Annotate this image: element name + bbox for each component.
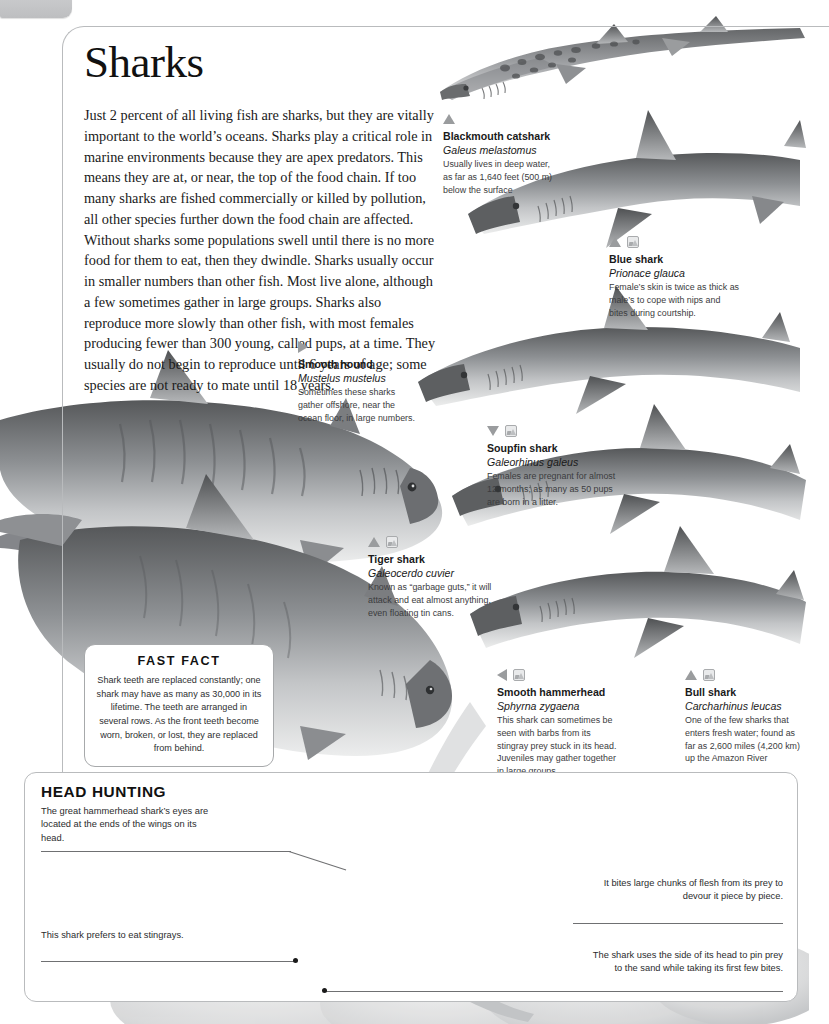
photo-icon [703, 669, 715, 681]
triangle-down-icon [487, 426, 499, 436]
species-name: Blackmouth catshark [443, 130, 558, 144]
species-description: Females are pregnant for almost 12 month… [487, 470, 619, 508]
species-name: Smooth hound [298, 358, 418, 372]
species-latin-name: Galeorhinus galeus [487, 456, 619, 470]
caption-smooth-hammerhead: Smooth hammerhead Sphyrna zygaena This s… [497, 668, 622, 778]
caption-soupfin-shark: Soupfin shark Galeorhinus galeus Females… [487, 424, 619, 508]
photo-icon [386, 536, 398, 548]
caption-tiger-shark: Tiger shark Galeocerdo cuvier Known as “… [368, 535, 500, 619]
leader-dot-stingray [293, 958, 298, 963]
species-name: Soupfin shark [487, 442, 619, 456]
fast-fact-body: Shark teeth are replaced constantly; one… [95, 674, 263, 756]
caption-markers [685, 668, 805, 682]
species-description: Female’s skin is twice as thick as male’… [609, 281, 741, 319]
species-description: One of the few sharks that enters fresh … [685, 714, 805, 765]
caption-bull-shark: Bull shark Carcharhinus leucas One of th… [685, 668, 805, 765]
note-eyes: The great hammerhead shark’s eyes are lo… [41, 805, 211, 845]
head-hunting-panel: HEAD HUNTING The great hammerhead shark’… [24, 772, 798, 1002]
caption-blue-shark: Blue shark Prionace glauca Female’s skin… [609, 235, 741, 319]
triangle-right-icon [298, 341, 308, 353]
triangle-up-icon [443, 114, 455, 124]
caption-markers [609, 235, 741, 249]
leader-dot-pin [322, 988, 327, 993]
head-hunting-title: HEAD HUNTING [41, 783, 166, 801]
species-latin-name: Mustelus mustelus [298, 372, 418, 386]
note-pin: The shark uses the side of its head to p… [588, 949, 783, 976]
species-description: This shark can sometimes be seen with ba… [497, 714, 622, 777]
leader-line-eyes-angle [289, 851, 346, 870]
photo-icon [513, 669, 525, 681]
caption-markers [487, 424, 619, 438]
triangle-up-icon [609, 237, 621, 247]
leader-line-eyes [41, 851, 291, 852]
species-description: Known as “garbage guts,” it will attack … [368, 581, 500, 619]
leader-line-stingray [41, 961, 296, 962]
triangle-up-icon [368, 537, 380, 547]
leader-line-pin [323, 991, 783, 992]
species-name: Smooth hammerhead [497, 686, 622, 700]
leader-line-bite [573, 923, 783, 924]
species-description: Usually lives in deep water, as far as 1… [443, 158, 558, 196]
triangle-left-icon [497, 669, 507, 681]
note-stingray: This shark prefers to eat stingrays. [41, 929, 191, 942]
caption-markers [298, 340, 418, 354]
triangle-up-icon [685, 670, 697, 680]
species-latin-name: Carcharhinus leucas [685, 700, 805, 714]
species-name: Blue shark [609, 253, 741, 267]
page-number-tab: 166 [0, 0, 72, 18]
species-description: Sometimes these sharks gather offshore, … [298, 386, 418, 424]
caption-markers [368, 535, 500, 549]
species-latin-name: Galeus melastomus [443, 144, 558, 158]
photo-icon [505, 425, 517, 437]
caption-smooth-hound: Smooth hound Mustelus mustelus Sometimes… [298, 340, 418, 424]
fast-fact-heading: FAST FACT [95, 654, 263, 668]
caption-markers [443, 112, 558, 126]
fast-fact-box: FAST FACT Shark teeth are replaced const… [84, 644, 274, 767]
species-latin-name: Sphyrna zygaena [497, 700, 622, 714]
caption-markers [497, 668, 622, 682]
species-name: Bull shark [685, 686, 805, 700]
page-title: Sharks [84, 40, 440, 85]
species-latin-name: Prionace glauca [609, 267, 741, 281]
species-name: Tiger shark [368, 553, 500, 567]
photo-icon [627, 236, 639, 248]
caption-blackmouth-catshark: Blackmouth catshark Galeus melastomus Us… [443, 112, 558, 196]
species-latin-name: Galeocerdo cuvier [368, 567, 500, 581]
note-bite: It bites large chunks of flesh from its … [603, 877, 783, 904]
